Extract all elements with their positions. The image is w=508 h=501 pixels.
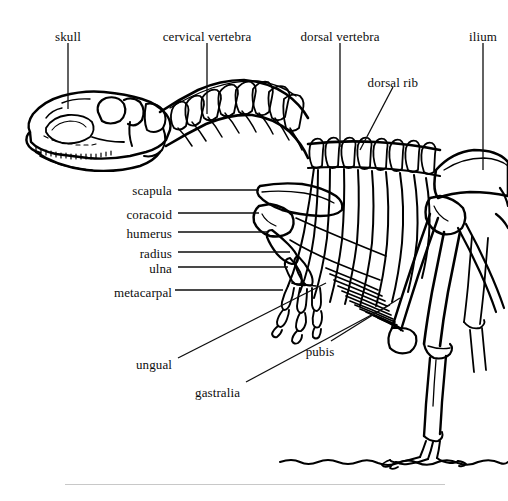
label-pubis: pubis: [306, 345, 335, 358]
label-dorsal-rib: dorsal rib: [368, 76, 418, 89]
gastralia: [326, 268, 403, 331]
dorsal-vertebrae: [308, 138, 440, 176]
leader-line-ungual: [178, 283, 326, 358]
label-ulna: ulna: [149, 262, 172, 275]
label-humerus: humerus: [127, 227, 172, 240]
pelvis: [388, 150, 508, 353]
far-hindlimb: [464, 236, 488, 372]
label-dorsal-vertebra: dorsal vertebra: [300, 30, 379, 43]
label-ungual: ungual: [136, 358, 172, 371]
label-skull: skull: [55, 30, 81, 43]
label-ilium: ilium: [469, 30, 497, 43]
cervical-vertebrae: [160, 80, 308, 158]
forelimb: [267, 230, 322, 344]
label-metacarpal: metacarpal: [114, 286, 172, 299]
figure-page: skullcervical vertebradorsal vertebraili…: [0, 0, 508, 501]
skeleton-illustration: [0, 0, 508, 501]
label-scapula: scapula: [132, 184, 172, 197]
label-coracoid: coracoid: [126, 208, 172, 221]
label-gastralia: gastralia: [195, 386, 240, 399]
bottom-divider-rule: [65, 484, 445, 485]
label-radius: radius: [140, 247, 172, 260]
skull-bones: [26, 92, 170, 171]
label-cervical-vertebra: cervical vertebra: [163, 30, 252, 43]
